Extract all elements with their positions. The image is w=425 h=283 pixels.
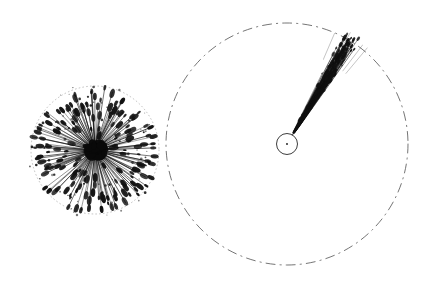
burst-stray-dot [62, 115, 64, 117]
burst-stray-dot [108, 183, 111, 186]
burst-stray-dot [70, 118, 73, 121]
burst-stray-dot [83, 183, 85, 185]
burst-stray-dot [60, 94, 61, 95]
burst-stray-dot [58, 110, 59, 111]
burst-stray-dot [39, 178, 40, 179]
burst-stray-dot [53, 173, 55, 175]
burst-stray-dot [93, 101, 95, 103]
burst-stray-dot [77, 100, 79, 102]
burst-core-blob [102, 150, 107, 157]
burst-stray-dot [118, 128, 119, 129]
burst-stray-dot [72, 144, 74, 146]
burst-stray-dot [113, 187, 115, 189]
burst-stray-dot [115, 199, 117, 201]
burst-stray-dot [101, 191, 104, 194]
burst-stray-dot [145, 162, 146, 163]
burst-stray-dot [110, 201, 113, 204]
burst-stray-dot [146, 151, 147, 152]
burst-stray-dot [43, 157, 44, 158]
burst-ray-head [123, 149, 127, 151]
burst-stray-dot [31, 146, 34, 149]
burst-stray-dot [92, 191, 93, 192]
burst-stray-dot [140, 129, 141, 130]
burst-stray-dot [136, 149, 137, 150]
burst-core-blob [91, 143, 96, 150]
burst-stray-dot [68, 127, 70, 129]
burst-stray-dot [77, 201, 78, 202]
burst-stray-dot [144, 191, 147, 194]
burst-stray-dot [74, 194, 75, 195]
burst-stray-dot [90, 104, 93, 107]
burst-stray-dot [117, 147, 119, 149]
burst-stray-dot [29, 166, 31, 168]
burst-stray-dot [143, 131, 145, 133]
burst-stray-dot [148, 163, 150, 165]
burst-stray-dot [149, 124, 150, 125]
burst-stray-dot [55, 121, 56, 122]
burst-stray-dot [35, 164, 38, 167]
burst-stray-dot [71, 175, 74, 178]
burst-stray-dot [120, 210, 122, 212]
burst-stray-dot [69, 198, 71, 200]
burst-stray-dot [121, 184, 122, 185]
burst-stray-dot [66, 191, 67, 192]
burst-stray-dot [145, 156, 147, 158]
burst-stray-dot [138, 178, 139, 179]
burst-stray-dot [72, 87, 73, 88]
burst-stray-dot [59, 191, 61, 193]
burst-stray-dot [84, 170, 85, 171]
burst-stray-dot [140, 157, 143, 160]
burst-stray-dot [78, 98, 81, 101]
burst-stray-dot [118, 89, 120, 91]
burst-stray-dot [78, 175, 80, 177]
burst-stray-dot [131, 161, 134, 164]
burst-stray-dot [108, 120, 110, 122]
burst-stray-dot [71, 208, 72, 209]
burst-stray-dot [107, 196, 109, 198]
burst-stray-dot [145, 130, 147, 132]
burst-stray-dot [112, 179, 113, 180]
burst-stray-dot [144, 112, 145, 113]
burst-stray-dot [76, 214, 78, 216]
burst-stray-dot [101, 102, 102, 103]
jet-source-dot [286, 143, 288, 145]
burst-stray-dot [64, 138, 67, 141]
burst-ray-head [93, 93, 97, 100]
burst-core-blob [84, 145, 91, 151]
burst-stray-dot [82, 189, 83, 190]
burst-stray-dot [119, 140, 121, 142]
burst-stray-dot [128, 120, 130, 122]
burst-stray-dot [73, 211, 74, 212]
burst-stray-dot [43, 147, 45, 149]
burst-stray-dot [81, 209, 83, 211]
burst-stray-dot [98, 183, 100, 185]
burst-stray-dot [87, 96, 89, 98]
burst-stray-dot [104, 184, 107, 187]
burst-stray-dot [76, 112, 78, 114]
burst-stray-dot [101, 119, 104, 122]
burst-stray-dot [85, 102, 87, 104]
burst-stray-dot [64, 128, 66, 130]
burst-stray-dot [48, 151, 51, 154]
figure-background [0, 0, 425, 283]
burst-stray-dot [116, 101, 118, 103]
burst-stray-dot [127, 137, 128, 138]
burst-stray-dot [67, 195, 68, 196]
burst-stray-dot [114, 134, 116, 136]
figure-root [0, 0, 425, 283]
burst-stray-dot [42, 122, 45, 125]
burst-stray-dot [48, 159, 50, 161]
burst-stray-dot [105, 85, 107, 87]
particle-emission-figure [0, 0, 425, 283]
burst-stray-dot [69, 94, 70, 95]
burst-stray-dot [131, 185, 132, 186]
burst-stray-dot [106, 106, 107, 107]
burst-stray-dot [138, 200, 140, 202]
burst-stray-dot [92, 86, 95, 89]
burst-stray-dot [106, 215, 107, 216]
burst-stray-dot [127, 153, 130, 156]
